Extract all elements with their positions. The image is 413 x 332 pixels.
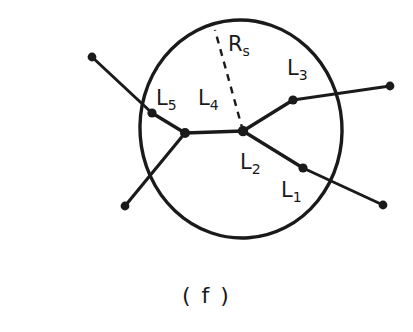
label-L4-subscript: 4 [210, 97, 219, 113]
label-L5-base: L [156, 86, 168, 110]
label-L4-base: L [198, 86, 210, 110]
label-L1-base: L [281, 178, 293, 202]
label-L2-subscript: 2 [252, 161, 261, 177]
endpoint-lower-right [379, 201, 388, 210]
label-L5-subscript: 5 [168, 97, 177, 113]
segment-L4 [185, 131, 243, 133]
label-L1: L1 [281, 180, 302, 201]
chain-nodes-group [88, 53, 395, 211]
label-L2-base: L [240, 150, 252, 174]
segment-L3-outer [293, 86, 390, 100]
label-L3: L3 [287, 58, 308, 79]
segment-lower-left-branch [125, 133, 185, 206]
label-L3-subscript: 3 [299, 67, 308, 83]
label-Rs-base: R [228, 32, 243, 56]
label-Rs-subscript: s [243, 43, 250, 59]
label-L5: L5 [156, 88, 177, 109]
segment-L5-inner [152, 113, 185, 133]
label-L3-base: L [287, 56, 299, 80]
segment-L1 [303, 168, 383, 205]
endpoint-upper-left [88, 53, 97, 62]
node-L1-junction [298, 163, 307, 172]
endpoint-lower-left [121, 202, 130, 211]
label-L1-subscript: 1 [293, 189, 302, 205]
figure-caption: ( f ) [0, 283, 413, 308]
endpoint-upper-right [386, 82, 395, 91]
label-L4: L4 [198, 88, 219, 109]
segment-L5-outer [92, 57, 152, 113]
node-L3-junction [288, 95, 297, 104]
figure-panel: RsL3L5L4L2L1 ( f ) [0, 0, 413, 332]
label-L2: L2 [240, 152, 261, 173]
label-Rs: Rs [228, 34, 250, 55]
segment-L3-inner [243, 100, 293, 131]
node-center-vertex [238, 126, 248, 136]
node-left-vertex [180, 128, 190, 138]
